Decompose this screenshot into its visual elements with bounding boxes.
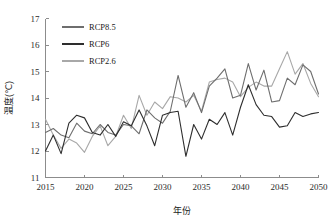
x-tick-label: 2015 [37,182,56,192]
x-tick-label: 2050 [310,182,329,192]
legend-label-rcp8-5: RCP8.5 [89,22,116,32]
y-tick-label: 17 [31,14,41,24]
temperature-projection-line-chart: 11121314151617 2015202020252030203520402… [0,0,335,221]
y-tick-label: 16 [31,40,41,50]
x-tick-label: 2025 [115,182,134,192]
y-tick-label: 15 [31,67,41,77]
y-tick-label: 14 [31,93,41,103]
y-tick-label: 13 [31,120,41,130]
x-tick-label: 2035 [193,182,212,192]
y-axis-title: 温度(℃) [3,81,14,115]
x-tick-label: 2040 [232,182,251,192]
x-tick-label: 2020 [76,182,95,192]
chart-figure: 11121314151617 2015202020252030203520402… [0,0,335,221]
legend-label-rcp2-6: RCP2.6 [89,56,116,66]
x-tick-label: 2030 [154,182,173,192]
y-tick-label: 12 [31,146,40,156]
x-axis-title: 年份 [173,205,191,216]
legend-label-rcp6: RCP6 [89,39,109,49]
x-tick-label: 2045 [271,182,290,192]
